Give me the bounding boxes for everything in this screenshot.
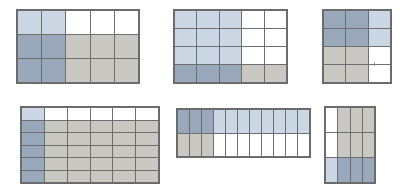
grid-cell <box>369 11 390 28</box>
grid-cell <box>197 29 218 46</box>
grid-cell <box>338 108 349 132</box>
grid-cell <box>238 134 249 157</box>
grid-cell <box>265 47 286 64</box>
grid-panel-6 <box>324 106 376 184</box>
grid-cell <box>250 110 261 133</box>
grid-cell <box>136 158 158 170</box>
grid-cell <box>286 134 297 157</box>
grid-cell <box>91 59 114 82</box>
grid-cell <box>326 133 337 157</box>
grid-cell <box>202 134 213 157</box>
grid-cell <box>220 65 241 82</box>
grid-cell <box>113 133 135 145</box>
grid-cell <box>262 134 273 157</box>
grid-cell <box>265 65 286 82</box>
grid-cell <box>346 65 367 82</box>
grid-cell <box>369 47 390 64</box>
grid-cell <box>136 146 158 158</box>
grid-cell <box>136 121 158 133</box>
grid-cell <box>66 11 89 34</box>
grid-cell <box>42 11 65 34</box>
grid-cell <box>113 146 135 158</box>
grid-cell <box>242 47 263 64</box>
grid-cell <box>298 134 309 157</box>
grid-cell <box>351 133 362 157</box>
grid-cell <box>45 108 67 120</box>
grid-cell <box>324 47 345 64</box>
grid-cell <box>242 29 263 46</box>
grid-cell <box>338 133 349 157</box>
grid-cell <box>363 133 374 157</box>
grid-cell <box>91 158 113 170</box>
grid-cell <box>226 110 237 133</box>
grid-cell <box>66 35 89 58</box>
grid-cell <box>363 158 374 182</box>
grid-cell <box>45 121 67 133</box>
grid-cell <box>214 110 225 133</box>
grid-cell <box>22 146 44 158</box>
grid-cell <box>220 29 241 46</box>
grid-cell <box>298 110 309 133</box>
grid-cell <box>91 171 113 183</box>
grid-cell <box>22 121 44 133</box>
grid-cell <box>68 171 90 183</box>
grid-cell <box>326 158 337 182</box>
grid-cell <box>45 171 67 183</box>
grid-cell <box>242 65 263 82</box>
grid-cell <box>68 121 90 133</box>
grid-cell <box>202 110 213 133</box>
grid-cell <box>91 35 114 58</box>
grid-cell <box>68 108 90 120</box>
grid-cell <box>68 133 90 145</box>
grid-cell <box>265 11 286 28</box>
grid-cell <box>286 110 297 133</box>
grid-cell <box>178 110 189 133</box>
grid-cell <box>45 158 67 170</box>
grid-cell <box>113 171 135 183</box>
grid-cell <box>68 158 90 170</box>
grid-cell <box>91 146 113 158</box>
grid-cell <box>214 134 225 157</box>
grid-cell <box>22 158 44 170</box>
grid-cell <box>115 59 138 82</box>
grid-cell <box>115 35 138 58</box>
grid-cell <box>250 134 261 157</box>
grid-cell <box>91 121 113 133</box>
grid-cell <box>351 108 362 132</box>
grid-cell <box>91 108 113 120</box>
grid-cell <box>346 47 367 64</box>
grid-panel-4 <box>20 106 160 184</box>
grid-cell <box>45 146 67 158</box>
grid-cell <box>324 11 345 28</box>
grid-cell <box>113 121 135 133</box>
grid-cell <box>242 11 263 28</box>
grid-cell <box>324 29 345 46</box>
grid-cell <box>351 158 362 182</box>
grid-cell <box>262 110 273 133</box>
grid-cell <box>113 108 135 120</box>
grid-cell <box>346 29 367 46</box>
grid-cell <box>338 158 349 182</box>
grid-cell <box>18 35 41 58</box>
grid-cell <box>45 133 67 145</box>
grid-panel-3 <box>322 9 392 84</box>
grid-cell <box>197 47 218 64</box>
grid-panel-5 <box>176 108 311 158</box>
grid-cell <box>115 11 138 34</box>
grid-cell <box>265 29 286 46</box>
grid-cell <box>178 134 189 157</box>
grid-cell <box>197 11 218 28</box>
speck-mark <box>374 62 375 66</box>
grid-cell <box>175 29 196 46</box>
figure-canvas <box>0 0 413 195</box>
grid-cell <box>175 65 196 82</box>
grid-cell <box>363 108 374 132</box>
grid-cell <box>22 171 44 183</box>
grid-cell <box>326 108 337 132</box>
grid-cell <box>113 158 135 170</box>
grid-cell <box>136 171 158 183</box>
grid-cell <box>369 29 390 46</box>
grid-cell <box>220 47 241 64</box>
grid-cell <box>190 110 201 133</box>
grid-cell <box>136 133 158 145</box>
